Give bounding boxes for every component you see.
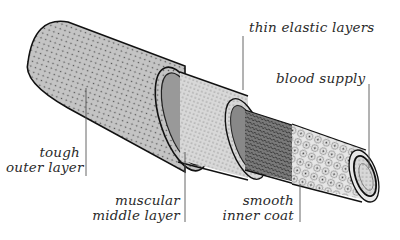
label-thin-elastic-layers: thin elastic layers (249, 20, 374, 35)
artery-diagram (0, 0, 400, 240)
label-smooth-inner-coat: smooth inner coat (218, 193, 294, 223)
label-muscular-middle-layer: muscular middle layer (90, 193, 180, 223)
label-blood-supply: blood supply (276, 71, 365, 86)
label-tough-line1: tough (6, 145, 80, 160)
label-tough-line2: outer layer (6, 160, 80, 175)
label-muscular-line2: middle layer (90, 208, 180, 223)
label-smooth-line1: smooth (218, 193, 294, 208)
label-smooth-line2: inner coat (218, 208, 294, 223)
label-muscular-line1: muscular (90, 193, 180, 208)
label-tough-outer-layer: tough outer layer (6, 145, 80, 175)
inner-coat-shape (292, 124, 385, 206)
